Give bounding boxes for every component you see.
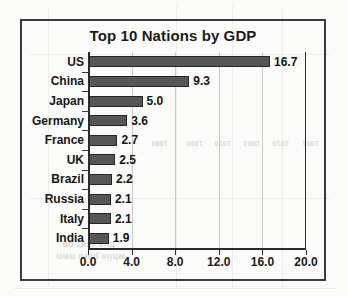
bar-value-label-italy: 2.1 xyxy=(115,212,132,226)
bar-italy xyxy=(88,213,111,224)
bar-value-label-us: 16.7 xyxy=(274,55,297,69)
bar-brazil xyxy=(88,174,112,185)
bar-value-label-russia: 2.1 xyxy=(115,192,132,206)
x-tick-label-8.0: 8.0 xyxy=(153,255,197,269)
category-label-uk: UK xyxy=(18,153,84,167)
x-tick-label-4.0: 4.0 xyxy=(110,255,154,269)
category-label-germany: Germany xyxy=(18,114,84,128)
bar-india xyxy=(88,233,109,244)
bar-value-label-germany: 3.6 xyxy=(131,114,148,128)
bar-value-label-uk: 2.5 xyxy=(119,153,136,167)
x-tick-label-20.0: 20.0 xyxy=(284,255,328,269)
category-label-us: US xyxy=(18,55,84,69)
bar-value-label-china: 9.3 xyxy=(193,74,210,88)
bar-uk xyxy=(88,154,115,165)
gridline-x-12.0 xyxy=(219,52,220,248)
y-tick-2 xyxy=(82,111,88,112)
category-label-china: China xyxy=(18,74,84,88)
x-axis-line xyxy=(88,248,306,250)
category-label-japan: Japan xyxy=(18,94,84,108)
category-label-italy: Italy xyxy=(18,212,84,226)
y-tick-6 xyxy=(82,189,88,190)
y-tick-3 xyxy=(82,130,88,131)
bar-china xyxy=(88,76,189,87)
plot-right-border xyxy=(305,52,306,249)
bar-france xyxy=(88,135,117,146)
bar-value-label-france: 2.7 xyxy=(121,133,138,147)
x-tick-label-16.0: 16.0 xyxy=(240,255,284,269)
y-tick-4 xyxy=(82,150,88,151)
y-tick-7 xyxy=(82,209,88,210)
y-tick-5 xyxy=(82,170,88,171)
category-label-russia: Russia xyxy=(18,192,84,206)
y-tick-1 xyxy=(82,91,88,92)
bar-germany xyxy=(88,115,127,126)
chart-title: Top 10 Nations by GDP xyxy=(20,27,326,44)
bar-russia xyxy=(88,194,111,205)
category-label-india: India xyxy=(18,231,84,245)
x-tick-label-0.0: 0.0 xyxy=(66,255,110,269)
y-tick-0 xyxy=(82,72,88,73)
bar-japan xyxy=(88,96,143,107)
bar-value-label-india: 1.9 xyxy=(113,231,130,245)
category-label-france: France xyxy=(18,133,84,147)
gridline-x-16.0 xyxy=(262,52,263,248)
category-label-brazil: Brazil xyxy=(18,172,84,186)
bar-value-label-brazil: 2.2 xyxy=(116,172,133,186)
bar-us xyxy=(88,56,270,67)
y-tick-8 xyxy=(82,228,88,229)
x-tick-label-12.0: 12.0 xyxy=(197,255,241,269)
y-axis-line xyxy=(88,52,90,249)
bar-value-label-japan: 5.0 xyxy=(147,94,164,108)
